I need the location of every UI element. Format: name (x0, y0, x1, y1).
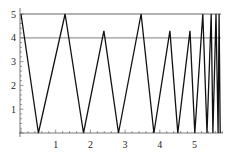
x-tick-label: 1 (53, 139, 58, 150)
reference-lines (21, 14, 221, 38)
series-line-zigzag (21, 14, 220, 133)
x-tick-label: 4 (157, 139, 162, 150)
y-tick-label: 4 (11, 32, 16, 43)
y-tick-label: 1 (11, 104, 16, 115)
x-tick-label: 3 (123, 139, 128, 150)
chart: 1234512345 (0, 0, 235, 157)
y-tick-label: 3 (11, 56, 16, 67)
data-series (21, 14, 220, 133)
y-tick-label: 2 (11, 80, 16, 91)
x-tick-label: 5 (192, 139, 197, 150)
y-tick-label: 5 (11, 9, 16, 20)
x-tick-label: 2 (88, 139, 93, 150)
